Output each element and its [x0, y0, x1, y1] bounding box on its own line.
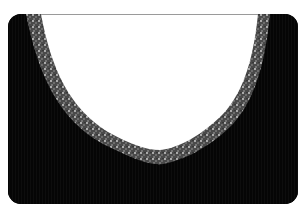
garment-neckline-image: [8, 14, 298, 204]
product-photo: [8, 14, 298, 204]
